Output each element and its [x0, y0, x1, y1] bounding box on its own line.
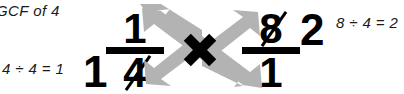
right-fraction: 8 1	[240, 4, 302, 94]
right-fraction-numerator-cancelled: 8	[259, 8, 282, 50]
right-division-annotation: 8 ÷ 4 = 2	[336, 14, 398, 31]
gcf-annotation: GCF of 4	[0, 2, 60, 19]
reduced-result: 2	[300, 8, 324, 52]
multiply-operator	[182, 33, 218, 65]
fraction-cross-cancel-figure: GCF of 4 4 ÷ 4 = 1 8 ÷ 4 = 2 1 1 4	[0, 0, 404, 94]
right-fraction-numerator-wrap: 8	[240, 8, 302, 50]
right-fraction-denominator: 1	[240, 52, 302, 94]
left-division-annotation: 4 ÷ 4 = 1	[2, 60, 64, 77]
